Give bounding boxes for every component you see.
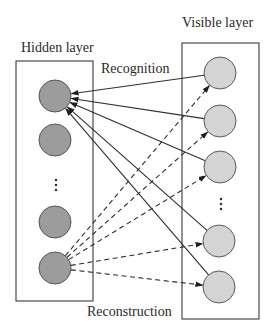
visible-node-v3 [204,151,236,183]
rbm-diagram: Hidden layer Visible layer Recognition R… [0,0,274,335]
reconstruction-edge [67,132,208,257]
visible-node-v2 [204,105,236,137]
recognition-edge [70,103,205,161]
hidden-node-h2 [39,124,71,156]
edges-group [65,75,209,285]
recognition-edge [71,98,204,118]
reconstruction-edge [65,86,209,256]
recognition-edge [66,109,209,275]
visible-node-v1 [204,57,236,89]
nodes-group [39,57,236,303]
recognition-edge [67,107,207,230]
hidden-layer-title: Hidden layer [21,40,94,55]
reconstruction-edge [71,270,203,285]
reconstruction-edge [71,244,203,266]
recognition-label: Recognition [101,61,169,76]
visible-ellipsis [220,198,223,211]
visible-layer-title: Visible layer [182,15,253,30]
hidden-node-h4 [39,252,71,284]
hidden-ellipsis [55,179,58,192]
recognition-edge [71,75,204,94]
visible-node-v4 [203,225,235,257]
visible-node-v5 [203,271,235,303]
reconstruction-label: Reconstruction [87,304,172,319]
hidden-node-h1 [39,80,71,112]
hidden-node-h3 [39,206,71,238]
